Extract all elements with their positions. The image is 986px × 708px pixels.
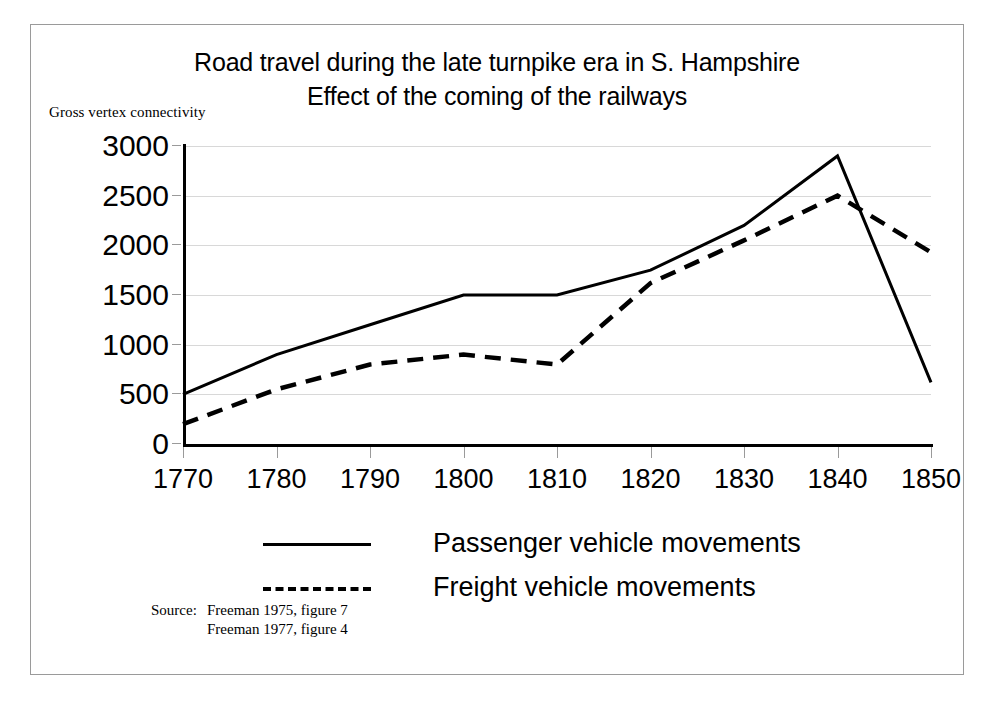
series-line	[183, 156, 931, 394]
series-lines	[183, 146, 943, 446]
legend-line-solid-icon	[263, 543, 371, 546]
x-tick-label: 1770	[153, 464, 213, 494]
x-tick-label: 1820	[620, 464, 680, 494]
x-tick-mark	[744, 447, 745, 458]
y-tick-label: 0	[152, 429, 169, 459]
x-tick-mark	[464, 447, 465, 458]
chart-legend: Passenger vehicle movements Freight vehi…	[231, 523, 931, 611]
y-tick-label: 500	[119, 379, 169, 409]
y-tick-label: 2000	[102, 230, 169, 260]
x-tick-label: 1810	[527, 464, 587, 494]
legend-label-passenger: Passenger vehicle movements	[433, 523, 801, 563]
x-tick-mark	[931, 447, 932, 458]
y-tick-mark	[172, 145, 181, 146]
y-tick-label: 2500	[102, 181, 169, 211]
x-tick-mark	[183, 447, 184, 458]
plot-area: 050010001500200025003000 177017801790180…	[183, 146, 931, 444]
y-tick-label: 3000	[102, 131, 169, 161]
x-tick-label: 1790	[340, 464, 400, 494]
series-line	[183, 196, 931, 424]
x-tick-mark	[277, 447, 278, 458]
chart-title-block: Road travel during the late turnpike era…	[31, 45, 963, 113]
source-line-1: Freeman 1975, figure 7	[207, 602, 348, 618]
y-tick-mark	[172, 393, 181, 394]
chart-title-line-1: Road travel during the late turnpike era…	[31, 45, 963, 79]
figure-frame: Road travel during the late turnpike era…	[30, 24, 964, 675]
source-line-2: Freeman 1977, figure 4	[207, 620, 348, 639]
x-tick-label: 1850	[901, 464, 961, 494]
x-tick-mark	[838, 447, 839, 458]
y-tick-mark	[172, 244, 181, 245]
y-tick-mark	[172, 195, 181, 196]
y-tick-mark	[172, 443, 181, 444]
plot-inner: 050010001500200025003000 177017801790180…	[183, 146, 931, 444]
y-tick-mark	[172, 344, 181, 345]
x-tick-label: 1830	[714, 464, 774, 494]
y-tick-mark	[172, 294, 181, 295]
x-tick-label: 1840	[807, 464, 867, 494]
y-tick-label: 1000	[102, 330, 169, 360]
x-tick-mark	[651, 447, 652, 458]
x-tick-mark	[557, 447, 558, 458]
x-tick-label: 1780	[246, 464, 306, 494]
legend-label-freight: Freight vehicle movements	[433, 567, 756, 607]
x-tick-mark	[370, 447, 371, 458]
source-note: Source:Freeman 1975, figure 7 Freeman 19…	[151, 601, 348, 639]
source-label: Source:	[151, 601, 207, 620]
x-tick-label: 1800	[433, 464, 493, 494]
legend-line-dashed-icon	[263, 587, 371, 591]
y-tick-label: 1500	[102, 280, 169, 310]
legend-item-passenger: Passenger vehicle movements	[231, 523, 931, 567]
y-axis-caption: Gross vertex connectivity	[49, 104, 206, 121]
